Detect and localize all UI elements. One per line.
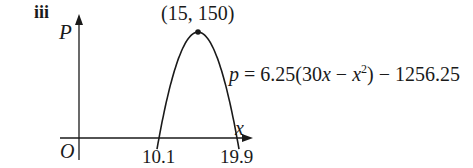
x-axis-arrow-icon bbox=[242, 134, 253, 142]
parabola-curve bbox=[157, 32, 239, 149]
vertex-point bbox=[195, 29, 201, 35]
y-axis-arrow-icon bbox=[75, 14, 83, 25]
plot-area bbox=[0, 0, 473, 168]
